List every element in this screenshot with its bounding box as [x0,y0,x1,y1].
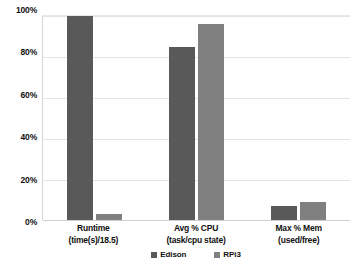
bar-groups [43,16,350,220]
bar-slot [96,16,122,220]
gridline-baseline [43,220,350,221]
x-axis-label-avg-cpu: Avg % CPU (task/cpu state) [145,223,248,246]
bar-edison-avg-cpu[interactable] [169,47,195,220]
bar-rpi3-max-mem[interactable] [300,202,326,220]
x-axis-label-line2: (time(s)/18.5) [42,235,145,247]
bar-edison-max-mem[interactable] [271,206,297,220]
bar-slot [300,16,326,220]
legend-swatch-icon [151,252,157,258]
y-axis-tick-label: 40% [21,132,37,142]
bar-slot [169,16,195,220]
y-axis: 100% 80% 60% 40% 20% 0% [0,10,40,222]
x-axis-label-line2: (task/cpu state) [145,235,248,247]
bar-chart: 100% 80% 60% 40% 20% 0% [0,0,354,273]
x-axis-label-line1: Avg % CPU [174,223,218,233]
bar-edison-runtime[interactable] [67,16,93,220]
bar-slot [67,16,93,220]
legend-label-rpi3: RPi3 [223,250,240,259]
x-axis-label-max-mem: Max % Mem (used/free) [247,223,350,246]
chart-legend: Edison RPi3 [42,250,350,259]
bar-group-max-mem [248,16,350,220]
y-axis-tick-label: 0% [25,217,37,227]
legend-item-rpi3[interactable]: RPi3 [214,250,240,259]
y-axis-tick-label: 20% [21,175,37,185]
bar-rpi3-avg-cpu[interactable] [198,24,224,220]
bar-group-runtime [43,16,145,220]
legend-swatch-icon [214,252,220,258]
y-axis-tick-label: 60% [21,90,37,100]
legend-label-edison: Edison [160,250,186,259]
bar-slot [271,16,297,220]
bar-group-avg-cpu [145,16,247,220]
x-axis-label-runtime: Runtime (time(s)/18.5) [42,223,145,246]
bar-rpi3-runtime[interactable] [96,214,122,220]
y-axis-tick-label: 100% [16,5,37,15]
y-axis-tick-label: 80% [21,47,37,57]
x-axis-label-line1: Runtime [77,223,110,233]
x-axis-label-line1: Max % Mem [275,223,321,233]
x-axis-category-labels: Runtime (time(s)/18.5) Avg % CPU (task/c… [42,223,350,246]
plot-area [42,15,350,220]
legend-item-edison[interactable]: Edison [151,250,186,259]
x-axis-label-line2: (used/free) [247,235,350,247]
bar-slot [198,16,224,220]
